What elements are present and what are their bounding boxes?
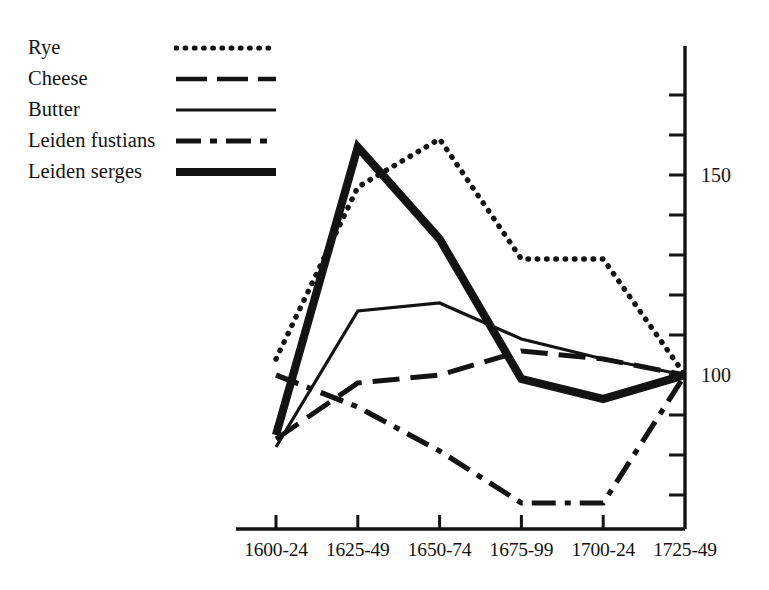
y-axis-tick-label: 100 (701, 364, 731, 387)
chart-figure: Rye Cheese Butter Le (0, 0, 769, 590)
plot-canvas (0, 0, 769, 590)
x-axis-tick-label: 1700-24 (571, 539, 635, 561)
y-axis-tick-label: 150 (701, 164, 731, 187)
x-axis-tick-label: 1600-24 (244, 539, 308, 561)
series-line-butter (276, 303, 685, 447)
series-line-rye (276, 139, 685, 375)
data-series-group (276, 139, 685, 503)
plot-area (0, 0, 769, 590)
x-axis-tick-label: 1650-74 (408, 539, 472, 561)
x-axis-tick-label: 1675-99 (490, 539, 554, 561)
x-axis-tick-label: 1725-49 (653, 539, 717, 561)
x-axis-tick-label: 1625-49 (326, 539, 390, 561)
axes (236, 46, 685, 529)
